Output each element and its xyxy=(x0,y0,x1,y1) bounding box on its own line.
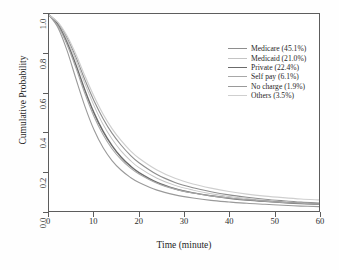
y-axis-title: Cumulative Probability xyxy=(18,25,28,175)
series-line xyxy=(49,15,319,200)
legend-line-swatch xyxy=(228,72,247,81)
legend-item: Self pay (6.1%) xyxy=(228,72,332,81)
legend-label: No charge (1.9%) xyxy=(247,82,305,91)
legend-label: Medicaid (21.0%) xyxy=(247,54,306,63)
y-tick-label: 0.6 xyxy=(38,93,48,115)
legend-line-swatch xyxy=(228,54,247,63)
legend-line-swatch xyxy=(228,82,247,91)
x-tick-label: 20 xyxy=(128,216,150,226)
chart-legend: Medicare (45.1%)Medicaid (21.0%)Private … xyxy=(228,44,332,100)
x-tick-label: 30 xyxy=(173,216,195,226)
x-axis-title: Time (minute) xyxy=(48,240,320,250)
legend-line-swatch xyxy=(228,44,247,53)
y-tick-label: 0.2 xyxy=(38,172,48,194)
legend-line-swatch xyxy=(228,63,247,72)
y-tick-label: 0.4 xyxy=(38,132,48,154)
legend-label: Medicare (45.1%) xyxy=(247,44,306,53)
legend-item: Medicaid (21.0%) xyxy=(228,53,332,62)
y-tick-label: 1.0 xyxy=(38,13,48,35)
legend-item: Private (22.4%) xyxy=(228,63,332,72)
legend-label: Self pay (6.1%) xyxy=(247,72,299,81)
x-tick-label: 60 xyxy=(309,216,331,226)
legend-label: Others (3.5%) xyxy=(247,91,294,100)
x-tick-label: 10 xyxy=(82,216,104,226)
y-tick-label: 0.8 xyxy=(38,53,48,75)
legend-item: No charge (1.9%) xyxy=(228,82,332,91)
x-tick-label: 0 xyxy=(37,216,59,226)
x-tick-label: 40 xyxy=(218,216,240,226)
x-tick-label: 50 xyxy=(264,216,286,226)
legend-item: Medicare (45.1%) xyxy=(228,44,332,53)
legend-label: Private (22.4%) xyxy=(247,63,299,72)
legend-line-swatch xyxy=(228,91,247,100)
legend-item: Others (3.5%) xyxy=(228,91,332,100)
chart-figure: Health Insurance Status 0.00.20.40.60.81… xyxy=(0,0,339,270)
plot-area xyxy=(48,13,320,212)
